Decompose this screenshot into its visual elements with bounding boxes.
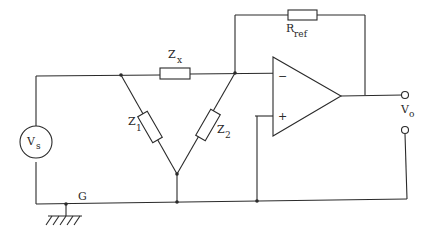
wire-ground-rail bbox=[36, 199, 407, 204]
node-ground-c bbox=[175, 200, 179, 204]
zx-label: Z bbox=[168, 48, 176, 61]
rref-subscript: ref bbox=[294, 29, 308, 39]
wire-output bbox=[341, 95, 403, 96]
z2-label: Z bbox=[217, 123, 225, 136]
ground-label: G bbox=[78, 190, 87, 203]
node-ground-plus bbox=[255, 199, 259, 203]
ground-icon bbox=[46, 204, 82, 225]
opamp-plus-label: + bbox=[278, 110, 287, 123]
wire-output-return bbox=[405, 134, 407, 199]
vs-label: V bbox=[26, 135, 36, 148]
z2-subscript: 2 bbox=[225, 130, 231, 140]
output-terminal-bottom bbox=[402, 127, 409, 134]
voltage-source-vs: V s bbox=[20, 126, 52, 158]
wire-top-left bbox=[36, 75, 160, 76]
opamp-minus-label: − bbox=[278, 70, 287, 83]
output-terminal-top bbox=[402, 92, 409, 99]
circuit-diagram: V s Z x Z 1 Z 2 R ref − + V o G bbox=[0, 0, 432, 234]
impedance-zx bbox=[160, 68, 190, 79]
z1-subscript: 1 bbox=[136, 123, 142, 133]
op-amp: − + bbox=[273, 57, 341, 136]
resistor-rref bbox=[288, 10, 317, 20]
zx-subscript: x bbox=[177, 55, 182, 65]
vo-subscript: o bbox=[409, 109, 414, 119]
z1-label: Z bbox=[128, 115, 136, 128]
vs-subscript: s bbox=[36, 141, 41, 151]
